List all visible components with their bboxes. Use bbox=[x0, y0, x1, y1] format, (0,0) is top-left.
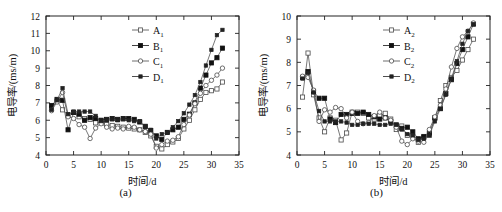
data-point bbox=[116, 119, 119, 122]
data-point bbox=[405, 125, 409, 129]
data-point bbox=[323, 120, 326, 123]
data-point bbox=[66, 128, 70, 132]
data-point bbox=[187, 118, 191, 122]
y-tick-label: 4 bbox=[286, 151, 291, 161]
data-point bbox=[138, 119, 141, 122]
data-point bbox=[193, 102, 197, 106]
figure-container: 05101520253035456789101112时间/d电导率/(ms/m)… bbox=[0, 0, 502, 212]
data-point bbox=[198, 97, 202, 101]
data-point bbox=[209, 89, 213, 93]
x-tick-label: 20 bbox=[152, 160, 162, 170]
data-point bbox=[160, 147, 164, 151]
y-tick-label: 5 bbox=[35, 133, 40, 143]
data-point bbox=[400, 139, 404, 143]
legend-label: D2 bbox=[404, 72, 415, 86]
data-point bbox=[176, 125, 180, 129]
data-point bbox=[378, 117, 382, 121]
data-point bbox=[422, 137, 425, 140]
data-point bbox=[328, 110, 332, 114]
data-point bbox=[215, 87, 219, 91]
x-tick-label: 35 bbox=[485, 160, 495, 170]
data-point bbox=[220, 46, 224, 50]
data-point bbox=[215, 56, 219, 60]
data-point bbox=[199, 80, 202, 83]
data-point bbox=[215, 33, 218, 36]
data-point bbox=[160, 132, 163, 135]
data-point bbox=[155, 137, 158, 140]
legend-label: C1 bbox=[153, 56, 164, 70]
y-tick-label: 11 bbox=[31, 29, 40, 39]
data-point bbox=[132, 125, 136, 129]
data-point bbox=[460, 35, 464, 39]
data-point bbox=[121, 127, 125, 131]
x-tick-label: 30 bbox=[207, 160, 217, 170]
data-point bbox=[450, 77, 453, 80]
x-tick-label: 15 bbox=[124, 160, 134, 170]
series-b2 bbox=[300, 22, 475, 141]
legend-marker bbox=[389, 43, 393, 47]
data-point bbox=[83, 110, 86, 113]
x-tick-label: 0 bbox=[44, 160, 49, 170]
data-point bbox=[356, 111, 360, 115]
data-point bbox=[455, 46, 459, 50]
data-point bbox=[188, 103, 191, 106]
data-point bbox=[143, 129, 147, 133]
data-point bbox=[209, 78, 213, 82]
data-point bbox=[322, 130, 326, 134]
data-point bbox=[466, 29, 469, 32]
x-tick-label: 5 bbox=[71, 160, 76, 170]
data-point bbox=[345, 131, 349, 135]
data-point bbox=[317, 119, 321, 123]
data-point bbox=[66, 112, 69, 115]
data-point bbox=[378, 123, 381, 126]
data-point bbox=[339, 106, 343, 110]
data-point bbox=[133, 119, 136, 122]
data-point bbox=[88, 110, 91, 113]
data-point bbox=[367, 122, 370, 125]
data-point bbox=[383, 111, 387, 115]
data-point bbox=[77, 122, 81, 126]
series-d1 bbox=[50, 28, 224, 140]
legend-marker bbox=[138, 28, 142, 32]
data-point bbox=[471, 37, 475, 41]
data-point bbox=[71, 116, 75, 120]
data-point bbox=[361, 110, 365, 114]
y-tick-label: 6 bbox=[286, 104, 291, 114]
y-tick-label: 4 bbox=[35, 151, 40, 161]
data-point bbox=[345, 121, 348, 124]
data-point bbox=[122, 118, 125, 121]
y-axis-title: 电导率/(ms/m) bbox=[257, 53, 270, 117]
data-point bbox=[466, 47, 470, 51]
legend-label: D1 bbox=[153, 72, 164, 86]
series-c1 bbox=[49, 66, 224, 150]
y-tick-label: 7 bbox=[35, 98, 40, 108]
data-point bbox=[193, 108, 197, 112]
data-point bbox=[220, 80, 224, 84]
x-tick-label: 30 bbox=[458, 160, 468, 170]
data-point bbox=[378, 110, 382, 114]
data-point bbox=[361, 122, 364, 125]
data-point bbox=[383, 116, 387, 120]
panel-a: 05101520253035456789101112时间/d电导率/(ms/m)… bbox=[0, 0, 251, 212]
data-point bbox=[94, 121, 98, 125]
legend-label: B1 bbox=[153, 41, 164, 55]
data-point bbox=[182, 122, 186, 126]
y-axis-title: 电导率/(ms/m) bbox=[6, 53, 19, 117]
data-point bbox=[215, 73, 219, 77]
data-point bbox=[88, 136, 92, 140]
data-point bbox=[406, 132, 409, 135]
data-point bbox=[50, 108, 53, 111]
data-point bbox=[149, 128, 152, 131]
data-point bbox=[72, 110, 75, 113]
x-tick-label: 20 bbox=[403, 160, 413, 170]
data-point bbox=[455, 59, 458, 62]
data-point bbox=[176, 135, 180, 139]
data-point bbox=[356, 123, 359, 126]
y-tick-label: 10 bbox=[282, 12, 292, 22]
data-point bbox=[395, 123, 398, 126]
data-point bbox=[204, 73, 208, 77]
data-point bbox=[83, 118, 87, 122]
data-point bbox=[220, 66, 224, 70]
data-point bbox=[182, 117, 186, 121]
data-point bbox=[384, 123, 387, 126]
